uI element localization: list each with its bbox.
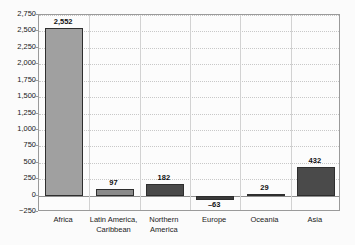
y-axis-tick-label: −250 — [2, 207, 36, 215]
bar[interactable] — [96, 189, 134, 195]
bar[interactable] — [297, 167, 335, 195]
y-axis-tick-label: 500 — [2, 158, 36, 166]
bar[interactable] — [247, 194, 285, 196]
bar-value-label: 2,552 — [33, 17, 93, 26]
gridline — [39, 64, 339, 65]
category-separator — [240, 15, 241, 210]
gridline — [39, 130, 339, 131]
bar-value-label: –63 — [184, 200, 244, 209]
y-axis-tick-label: 1,750 — [2, 76, 36, 84]
y-axis-tick-label: 1,000 — [2, 125, 36, 133]
x-axis-category-label: Asia — [275, 215, 355, 225]
gridline — [39, 146, 339, 147]
bar-value-label: 182 — [134, 173, 194, 182]
y-axis-tick-label: 2,000 — [2, 59, 36, 67]
y-axis-tick-label: 250 — [2, 174, 36, 182]
y-axis-tick-label: 750 — [2, 141, 36, 149]
category-separator — [291, 15, 292, 210]
y-axis-tick-label: 2,750 — [2, 10, 36, 18]
y-axis-tick-label: 2,500 — [2, 26, 36, 34]
x-axis-category-label-line: America — [124, 225, 204, 235]
bar[interactable] — [45, 28, 83, 196]
x-axis-category-label-line: Asia — [275, 215, 355, 225]
gridline — [39, 114, 339, 115]
y-axis-tick-label: 1,500 — [2, 92, 36, 100]
y-axis-tick-label: 2,250 — [2, 43, 36, 51]
gridline — [39, 31, 339, 32]
gridline — [39, 15, 339, 16]
bar-chart: 2,7502,5002,2502,0001,7501,5001,2501,000… — [0, 0, 355, 245]
bar-value-label: 432 — [285, 156, 345, 165]
y-axis-tick-label: 1,250 — [2, 109, 36, 117]
y-axis-tick-label: 0 — [2, 191, 36, 199]
bar[interactable] — [146, 184, 184, 196]
y-axis-tick-mark — [34, 211, 38, 212]
zero-line — [39, 196, 339, 197]
gridline — [39, 81, 339, 82]
bar-value-label: 29 — [235, 183, 295, 192]
gridline — [39, 97, 339, 98]
gridline — [39, 48, 339, 49]
